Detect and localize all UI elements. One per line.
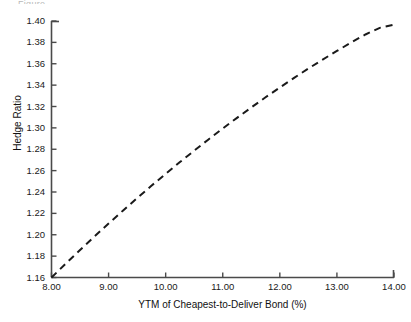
- x-tick-label: 11.00: [200, 282, 246, 292]
- chart-plot-area: [0, 0, 411, 322]
- y-tick-label: 1.38: [11, 37, 45, 47]
- y-axis-title-wrapper: Hedge Ratio: [12, 75, 24, 171]
- chart-figure: Figure 1.161.181.201.221.241.261.281.301…: [0, 0, 411, 322]
- y-axis-title: Hedge Ratio: [12, 75, 24, 171]
- y-tick-label: 1.22: [11, 208, 45, 218]
- x-tick-label: 8.00: [29, 282, 75, 292]
- x-tick-label: 14.00: [371, 282, 411, 292]
- axis-spines: [51, 21, 394, 278]
- series-line-hedge-ratio: [52, 25, 395, 278]
- x-tick-label: 10.00: [143, 282, 189, 292]
- x-axis-title: YTM of Cheapest-to-Deliver Bond (%): [51, 299, 394, 311]
- y-tick-label: 1.16: [11, 273, 45, 283]
- x-tick-label: 9.00: [86, 282, 132, 292]
- x-tick-label: 12.00: [257, 282, 303, 292]
- y-tick-label: 1.20: [11, 230, 45, 240]
- y-tick-label: 1.40: [11, 16, 45, 26]
- x-tick-label: 13.00: [314, 282, 360, 292]
- y-tick-label: 1.18: [11, 251, 45, 261]
- y-tick-label: 1.36: [11, 59, 45, 69]
- y-tick-label: 1.24: [11, 187, 45, 197]
